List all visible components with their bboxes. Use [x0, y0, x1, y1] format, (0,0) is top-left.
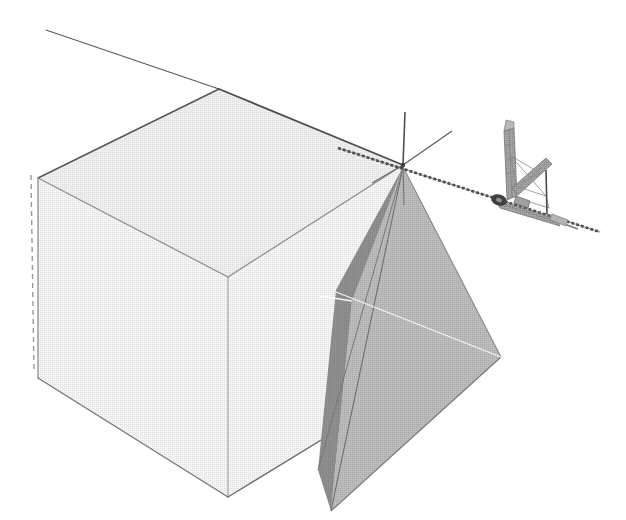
axis-origin-marker[interactable] — [401, 163, 405, 167]
scene-canvas[interactable] — [0, 0, 626, 520]
cad-viewport[interactable]: Box Solid Cone Solid Axis Triad Linear A… — [0, 0, 626, 520]
support-post[interactable] — [546, 170, 547, 214]
